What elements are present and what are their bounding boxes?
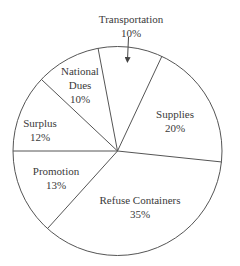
pct-promotion: 13% [46, 179, 66, 191]
transportation-arrow [128, 37, 129, 60]
label-national: National [61, 65, 99, 77]
pct-national-dues: 10% [70, 93, 90, 105]
pct-refuse-containers: 35% [130, 208, 150, 220]
pct-transportation: 10% [121, 27, 141, 39]
pct-surplus: 12% [30, 131, 50, 143]
label-transportation: Transportation [99, 13, 164, 25]
pie-chart: Transportation 10% National Dues 10% Sup… [0, 0, 240, 266]
label-supplies: Supplies [156, 108, 194, 120]
divider-transportation-supplies [118, 56, 163, 151]
label-promotion: Promotion [33, 165, 80, 177]
label-refuse-containers: Refuse Containers [100, 194, 181, 206]
label-surplus: Surplus [23, 117, 57, 129]
divider-supplies-refuse [118, 151, 223, 162]
label-dues: Dues [69, 79, 92, 91]
pct-supplies: 20% [165, 122, 185, 134]
